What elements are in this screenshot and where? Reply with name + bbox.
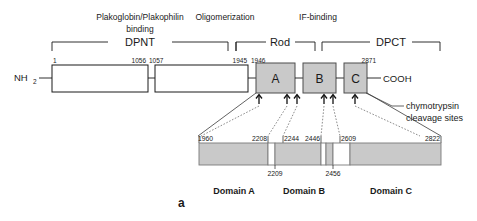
header-plakoglobin: Plakoglobin/Plakophilin binding [96,12,184,34]
expanded-gap-3 [333,143,350,165]
header-plakoglobin-line1: Plakoglobin/Plakophilin [96,12,184,22]
domain-label-c: Domain C [370,186,413,196]
bracket-rod: Rod [236,36,315,51]
expanded-gap-2 [321,143,326,165]
expanded-segment-c [350,143,441,165]
expanded-label-2446: 2446 [305,135,320,142]
expanded-label-2609: 2609 [341,135,356,142]
domain-box-dpnt [52,65,148,92]
cleavage-arrows [256,95,358,105]
expanded-segment-a [199,143,268,165]
panel-caption: a [178,196,185,210]
expanded-bar [199,143,441,165]
c-terminus: COOH [367,73,412,84]
expanded-label-2208: 2208 [252,135,267,142]
n-terminus: NH 2 [14,72,52,85]
region-label-dpnt: DPNT [125,36,155,48]
header-if-binding-line1: IF-binding [299,12,337,22]
cleavage-leader-lines [201,106,420,136]
subdomain-a: A [256,63,295,93]
domain-label-b: Domain B [283,186,326,196]
expanded-label-1960: 1960 [198,135,213,142]
cleavage-arrow-2 [284,95,290,105]
n-terminus-subscript: 2 [33,78,37,85]
header-oligomerization-line1: Oligomerization [195,12,254,22]
subdomain-a-label: A [271,72,279,86]
cleavage-arrow-4 [321,95,327,105]
expanded-segment-b1 [275,143,321,165]
expanded-label-2244: 2244 [284,135,299,142]
expanded-gap-1 [268,143,275,165]
header-plakoglobin-line2: binding [126,24,154,34]
cleavage-arrow-5 [330,95,336,105]
region-label-rod: Rod [270,36,290,48]
subdomain-b: B [303,63,336,93]
chymotrypsin-note-line2: cleavage sites [406,113,464,123]
region-label-dpct: DPCT [376,36,406,48]
residue-rod-start: 1057 [149,57,164,64]
chymotrypsin-note: chymotrypsin cleavage sites [366,93,464,123]
expanded-bar-bottom-labels: 2209 2456 [267,165,340,177]
c-terminus-label: COOH [383,73,412,84]
subdomain-b-label: B [315,72,323,86]
bracket-dpnt: DPNT [52,36,228,51]
bracket-dpct: DPCT [322,36,440,51]
expanded-label-2209: 2209 [267,170,282,177]
domain-box-rod [155,65,248,92]
figure-canvas: Plakoglobin/Plakophilin binding Oligomer… [0,0,477,221]
expansion-guides [198,93,441,136]
domain-label-a: Domain A [213,186,255,196]
subdomain-c-label: C [351,72,360,86]
residue-dpnt-end: 1056 [132,57,147,64]
expanded-label-2456: 2456 [325,170,340,177]
n-terminus-label: NH [14,72,28,83]
domain-labels: Domain A Domain B Domain C [213,186,412,196]
desmoplakin-domain-figure: Plakoglobin/Plakophilin binding Oligomer… [0,0,477,221]
header-oligomerization: Oligomerization [195,12,254,22]
residue-dpnt-start: 1 [53,57,57,64]
cleavage-arrow-6 [352,95,358,105]
cleavage-arrow-1 [256,95,262,105]
chymotrypsin-note-line1: chymotrypsin [406,101,459,111]
expanded-bar-ticks [199,136,441,143]
subdomain-c: C [344,63,367,93]
expanded-segment-b2 [326,143,333,165]
residue-rod-end: 1945 [233,57,248,64]
cleavage-arrow-3 [294,95,300,105]
expanded-label-2822: 2822 [425,135,440,142]
header-if-binding: IF-binding [299,12,337,22]
expanded-bar-top-labels: 1960 2208 2244 2446 2609 2822 [198,135,440,142]
